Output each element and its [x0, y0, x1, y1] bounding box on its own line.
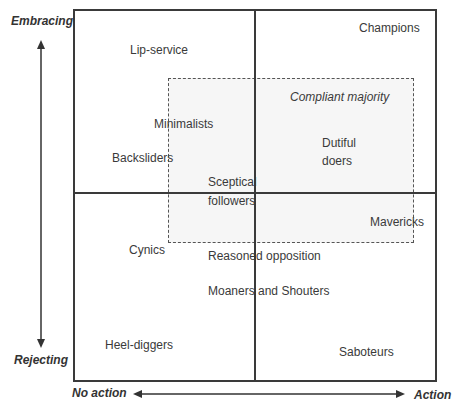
- label-saboteurs: Saboteurs: [339, 345, 394, 360]
- label-dutiful-line2: doers: [322, 154, 352, 169]
- x-axis-left-label: No action: [72, 386, 127, 400]
- label-minimalists: Minimalists: [154, 117, 213, 132]
- label-mavericks: Mavericks: [370, 215, 424, 230]
- label-reasoned-opposition: Reasoned opposition: [208, 249, 321, 264]
- y-axis-top-label: Embracing: [11, 14, 73, 28]
- label-dutiful-line1: Dutiful: [322, 136, 356, 151]
- label-backsliders: Backsliders: [112, 151, 173, 166]
- label-sceptical-line2: followers: [208, 194, 255, 209]
- y-axis-bottom-label: Rejecting: [14, 353, 68, 367]
- vertical-axis-arrow-icon: [34, 40, 48, 348]
- label-heel-diggers: Heel-diggers: [105, 338, 173, 353]
- label-lip-service: Lip-service: [130, 43, 188, 58]
- label-moaners-shouters: Moaners and Shouters: [208, 284, 329, 299]
- label-cynics: Cynics: [129, 243, 165, 258]
- label-sceptical-line1: Sceptical: [208, 175, 257, 190]
- x-axis-right-label: Action: [414, 388, 451, 402]
- label-champions: Champions: [359, 21, 420, 36]
- horizontal-axis-arrow-icon: [133, 388, 405, 400]
- compliant-majority-label: Compliant majority: [290, 90, 389, 105]
